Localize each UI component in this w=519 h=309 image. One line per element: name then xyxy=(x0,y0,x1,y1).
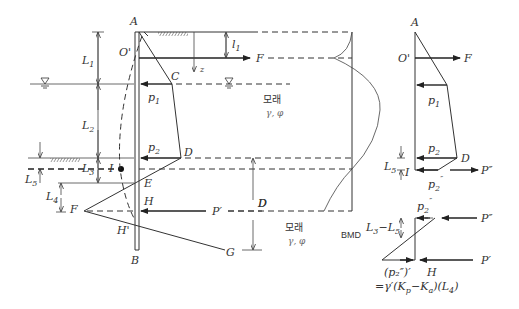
fb-label-p1: p1 xyxy=(428,94,440,109)
fb-label-O-prime: O' xyxy=(398,52,410,65)
fb-label-A: A xyxy=(410,16,419,29)
label-L1: L1 xyxy=(81,54,94,69)
main-diagram: F l1 z p1 p2 xyxy=(24,15,380,267)
fb-label-p2-double-prime: p2″ xyxy=(428,174,443,193)
lfb-label-P-prime: P′ xyxy=(480,254,491,267)
label-F-force: F xyxy=(255,52,264,65)
label-L2: L2 xyxy=(81,119,94,134)
formula-line-1: (p₂″)′ xyxy=(384,266,411,279)
active-pressure-envelope xyxy=(139,32,181,158)
sheet-pile-diagram: F l1 z p1 p2 xyxy=(0,0,519,309)
lfb-label-H: H xyxy=(426,266,437,279)
label-I: I xyxy=(108,162,114,175)
label-E: E xyxy=(143,177,152,190)
fb-label-L5: L5 xyxy=(383,160,396,175)
label-p2: p2 xyxy=(148,141,160,156)
label-D: D xyxy=(183,146,193,159)
label-L5: L5 xyxy=(24,173,37,188)
water-table-icon-right xyxy=(225,78,233,88)
label-D-dim: D xyxy=(257,197,267,210)
fb-label-P-double-prime: P″ xyxy=(480,164,493,177)
upper-free-body-diagram: A O' F p1 p2 D I P″ p2″ L5 xyxy=(383,16,493,193)
lfb-label-L3-minus-L5: L3−L5 xyxy=(365,221,400,236)
net-pressure-envelope xyxy=(84,158,225,250)
bmd-label: BMD xyxy=(341,230,362,240)
label-F-point: F xyxy=(69,203,78,216)
fb-label-I: I xyxy=(404,166,410,179)
lfb-label-p2-double-prime: p2″ xyxy=(417,196,432,215)
soil-lower-props: γ, φ xyxy=(288,236,306,246)
label-l1: l1 xyxy=(232,38,241,53)
fb-label-p2: p2 xyxy=(428,142,440,157)
soil-lower-name: 모래 xyxy=(285,222,303,233)
point-I-marker xyxy=(118,166,124,172)
label-G: G xyxy=(226,246,235,259)
fb-label-D: D xyxy=(460,152,470,165)
lower-free-body-diagram: p2″ P″ P′ H L3−L5 (p₂″)′ =γ′(Kp−Ka)(L4) xyxy=(365,196,493,295)
label-A: A xyxy=(129,15,138,28)
ground-hatch-top xyxy=(158,32,188,36)
formula-line-2: =γ′(Kp−Ka)(L4) xyxy=(375,280,458,295)
label-O-prime: O' xyxy=(119,46,131,59)
label-z: z xyxy=(199,65,205,74)
label-H-prime: H' xyxy=(116,224,130,237)
soil-upper-name: 모래 xyxy=(263,94,281,105)
label-L4: L4 xyxy=(45,190,58,205)
ground-hatch-dredge xyxy=(50,158,80,162)
lfb-label-P-double-prime: P″ xyxy=(480,212,493,225)
label-C: C xyxy=(171,70,180,83)
label-H: H xyxy=(143,195,154,208)
label-P-prime: P′ xyxy=(211,205,222,218)
label-B: B xyxy=(130,254,139,267)
fb-label-F: F xyxy=(463,52,472,65)
water-table-icon xyxy=(41,78,49,88)
soil-upper-props: γ, φ xyxy=(266,108,284,118)
label-L3: L3 xyxy=(81,162,94,177)
label-p1: p1 xyxy=(148,91,160,106)
